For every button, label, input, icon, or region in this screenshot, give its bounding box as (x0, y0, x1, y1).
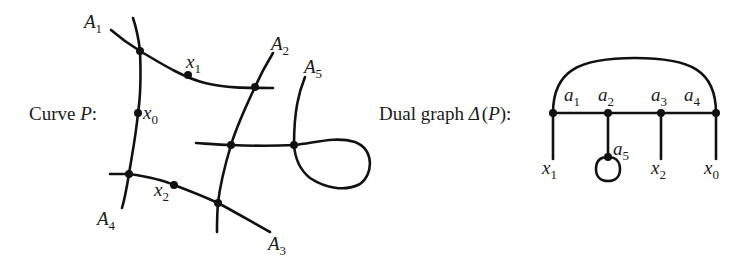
label-x0: x0 (142, 102, 158, 127)
node-a1-a4 (136, 47, 144, 55)
label-vertex-a4: a4 (684, 84, 701, 109)
vertex-a3 (657, 109, 665, 117)
figure-canvas: Curve P: A1 A2 A5 A4 A3 x1 x0 x2 Dual gr… (0, 0, 749, 268)
label-leg-x1: x1 (541, 157, 557, 182)
node-a5-self (290, 141, 298, 149)
curve-caption: Curve P: (29, 103, 97, 124)
vertex-a2 (604, 109, 612, 117)
marked-point-x2 (170, 181, 178, 189)
label-a4: A4 (95, 208, 116, 233)
label-a3: A3 (266, 233, 286, 258)
dual-graph-caption: Dual graph Δ(P): (379, 103, 511, 125)
component-a5-branch (294, 77, 305, 145)
vertex-a4 (712, 109, 720, 117)
label-vertex-a1: a1 (564, 84, 580, 109)
label-leg-x2: x2 (650, 157, 666, 182)
label-a1: A1 (82, 11, 102, 36)
component-a3-curve (110, 174, 270, 232)
node-a4-a3 (125, 170, 133, 178)
marked-point-x1 (184, 71, 192, 79)
label-vertex-a2: a2 (598, 84, 614, 109)
marked-point-x0 (134, 109, 142, 117)
component-a2-curve (217, 53, 273, 232)
node-a1-a2 (251, 83, 259, 91)
curve-p-figure: Curve P: A1 A2 A5 A4 A3 x1 x0 x2 (29, 11, 370, 258)
label-vertex-a3: a3 (651, 84, 667, 109)
dual-graph-figure: Dual graph Δ(P): a1 a2 a3 a4 a5 x1 x2 x0 (379, 58, 720, 182)
vertex-a5 (604, 153, 612, 161)
vertex-a1 (549, 109, 557, 117)
label-leg-x0: x0 (703, 157, 719, 182)
node-a2-a3 (214, 199, 222, 207)
node-a2-a5 (227, 141, 235, 149)
